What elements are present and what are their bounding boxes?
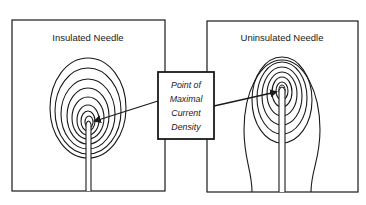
- needle-current-density-diagram: Insulated Needle Uninsulated Needle: [0, 0, 366, 205]
- callout-line-1: Point of: [171, 80, 202, 90]
- uninsulated-needle-shaft: [279, 87, 285, 192]
- insulated-needle-shaft: [86, 121, 91, 191]
- callout-line-3: Current: [171, 108, 201, 118]
- uninsulated-panel-title: Uninsulated Needle: [241, 32, 324, 43]
- insulated-panel-title: Insulated Needle: [52, 32, 123, 43]
- callout-box: Point of Maximal Current Density: [158, 72, 214, 139]
- uninsulated-needle-panel: Uninsulated Needle: [207, 21, 358, 192]
- callout-line-4: Density: [171, 122, 201, 132]
- callout-line-2: Maximal: [170, 94, 204, 104]
